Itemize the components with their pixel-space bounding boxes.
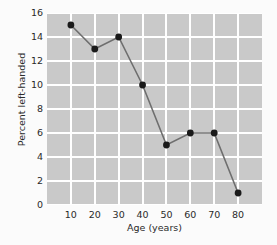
- data-point-marker: [187, 130, 194, 137]
- data-point-marker: [235, 190, 242, 197]
- x-axis-title: Age (years): [47, 222, 262, 233]
- data-point-marker: [91, 46, 98, 53]
- data-point-marker: [139, 82, 146, 89]
- data-point-marker: [163, 142, 170, 149]
- y-tick-label: 0: [3, 200, 43, 210]
- data-point-marker: [115, 34, 122, 41]
- line-chart: 0246810121416 1020304050607080 Age (year…: [0, 0, 277, 245]
- data-point-marker: [211, 130, 218, 137]
- x-tick-label: 80: [218, 209, 258, 220]
- y-axis-title: Percent left-handed: [16, 4, 27, 196]
- x-axis-tick-labels: 1020304050607080: [47, 209, 262, 223]
- plot-area: [47, 13, 262, 205]
- data-point-marker: [67, 22, 74, 29]
- data-series-layer: [47, 13, 262, 205]
